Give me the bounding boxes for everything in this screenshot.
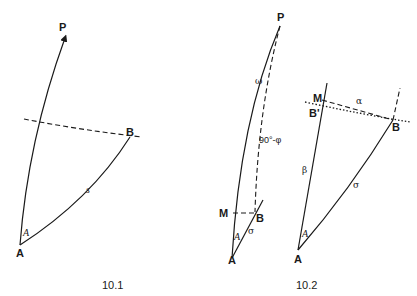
label-m: M [219,207,228,219]
label-a: A [228,254,236,266]
label-sigma: σ [353,180,359,190]
label-b: B [392,121,400,133]
figure-10-2-right: M B' α B β σ A A 10.2 [294,83,410,291]
label-p: P [277,11,284,23]
colatitude-arc-p-to-b [255,26,280,212]
label-a: A [16,247,24,259]
label-s: s [86,184,90,195]
label-beta: β [302,165,307,175]
label-omega: ω [255,76,262,86]
label-angle-a: A [233,231,241,242]
label-p: P [59,21,66,33]
arc-s-a-to-b [20,137,130,245]
label-sigma: σ [248,226,254,236]
sigma-line-a-to-b [298,120,393,250]
label-a: A [294,253,302,265]
caption-10-2: 10.2 [296,279,317,291]
label-b: B [256,212,264,224]
label-alpha: α [356,96,362,106]
label-colatitude: 90°-φ [259,135,282,145]
label-m: M [313,92,322,104]
parallel-arc-through-b [24,119,142,137]
meridian-through-b [393,88,400,120]
caption-10-1: 10.1 [102,279,123,291]
label-b: B [126,126,134,138]
label-b-prime: B' [309,107,320,119]
diagram-canvas: P B s A A 10.1 P ω 90°-φ M B A σ A M B' … [0,0,417,296]
label-angle-a: A [301,228,309,239]
figure-10-2-left: P ω 90°-φ M B A σ A [219,11,284,266]
meridian-a-to-p [20,38,65,245]
label-angle-a: A [22,227,30,238]
figure-10-1: P B s A A 10.1 [16,21,142,291]
